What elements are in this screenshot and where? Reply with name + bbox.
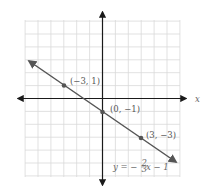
equation-label: y = − 2 3 x − 1 <box>112 158 169 174</box>
svg-text:y = −: y = − <box>112 162 137 172</box>
point-label-0-neg1: (0, −1) <box>110 104 140 114</box>
point-label-3-neg3: (3, −3) <box>146 130 176 140</box>
point-0-neg1 <box>100 110 105 115</box>
svg-text:x − 1: x − 1 <box>146 162 169 172</box>
x-axis-label: x <box>195 94 200 104</box>
coordinate-plane: x (−3, 1) (0, −1) (3, −3) y = − 2 3 x − … <box>0 0 216 187</box>
point-neg3-1 <box>62 83 67 88</box>
point-label-neg3-1: (−3, 1) <box>70 76 100 86</box>
point-3-neg3 <box>139 136 144 141</box>
